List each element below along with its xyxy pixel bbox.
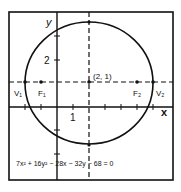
focus-1-point [39,80,43,84]
y-tick-label-2: 2 [44,55,50,66]
ellipse-diagram: y x 2 1 (2, 1) V₁ F₁ F₂ V₂ 7x² + 16y² − … [0,0,181,192]
x-axis-label: x [161,106,168,118]
bottom-point [87,143,90,146]
vertex-1-label: V₁ [14,89,22,98]
focus-2-point [135,80,139,84]
vertex-2-label: V₂ [156,89,164,98]
vertex-2-point [151,80,155,84]
focus-1-label: F₁ [38,89,46,98]
center-label: (2, 1) [93,72,112,81]
vertex-1-point [23,80,27,84]
equation: 7x² + 16y² − 28x − 32y − 68 = 0 [16,160,114,168]
center-point [87,80,91,84]
x-tick-label-1: 1 [70,112,76,123]
frame [9,12,173,180]
top-point [87,20,90,23]
focus-2-label: F₂ [133,89,141,98]
y-axis-label: y [45,16,53,28]
